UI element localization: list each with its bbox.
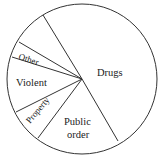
label-violent: Violent: [16, 77, 47, 88]
label-public-order-line2: order: [67, 129, 90, 140]
pie-chart: Drugs Other Violent Property Public orde…: [0, 0, 164, 159]
label-public-order-line1: Public: [64, 116, 91, 127]
label-drugs: Drugs: [97, 67, 123, 78]
